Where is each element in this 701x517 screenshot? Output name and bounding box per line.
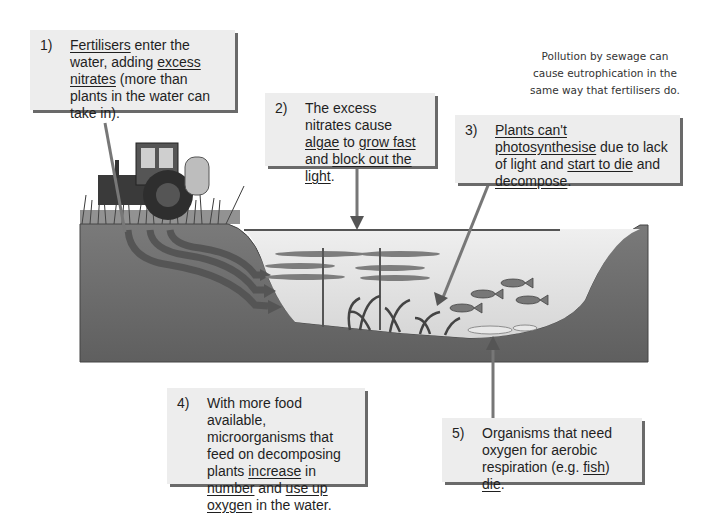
step-2-box: 2) The excess nitrates cause algae to gr… [265,93,435,166]
step-number: 2) [275,100,287,117]
step-text: Fertilisers enter the water, adding exce… [70,37,225,122]
step-4-box: 4) With more food available, microorgani… [167,388,365,484]
step-1-box: 1) Fertilisers enter the water, adding e… [30,30,235,110]
text: The excess nitrates cause [305,100,392,133]
step-number: 4) [177,395,189,412]
key-term: Plants can't photosynthesise [495,122,596,155]
step-3-box: 3) Plants can't photosynthesise due to l… [455,115,680,183]
text: and [254,480,285,496]
key-term: start to die [567,156,632,172]
text: . [567,173,571,189]
text: to [339,134,358,150]
step-number: 5) [452,425,464,442]
key-term: grow fast [359,134,416,150]
step-text: The excess nitrates cause algae to grow … [305,100,425,185]
key-term: fish [583,459,605,475]
step-text: With more food available, microorganisms… [207,395,355,514]
key-term: increase [248,463,301,479]
sewage-note: Pollution by sewage can cause eutrophica… [520,48,690,99]
step-number: 1) [40,37,52,54]
key-term: number [207,480,254,496]
text: and [305,151,332,167]
step-text: Plants can't photosynthesise due to lack… [495,122,670,190]
eutrophication-diagram: Pollution by sewage can cause eutrophica… [0,0,701,517]
text: . [501,476,505,492]
text: in the water. [252,497,331,513]
note-line: Pollution by sewage can [520,48,690,65]
key-term: algae [305,134,339,150]
step-text: Organisms that need oxygen for aerobic r… [482,425,632,493]
text: and [633,156,660,172]
step-number: 3) [465,122,477,139]
key-term: die [482,476,501,492]
key-term: decompose [495,173,567,189]
step-5-box: 5) Organisms that need oxygen for aerobi… [442,418,642,482]
text: ) [605,459,610,475]
text: in [301,463,316,479]
text: . [331,168,335,184]
note-line: same way that fertilisers do. [520,82,690,99]
key-term: Fertilisers [70,37,131,53]
note-line: cause eutrophication in the [520,65,690,82]
